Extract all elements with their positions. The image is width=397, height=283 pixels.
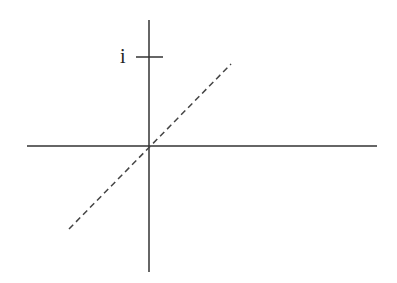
imaginary-unit-label: i xyxy=(120,46,126,66)
complex-plane-diagram: i xyxy=(0,0,397,283)
diagram-svg xyxy=(0,0,397,283)
